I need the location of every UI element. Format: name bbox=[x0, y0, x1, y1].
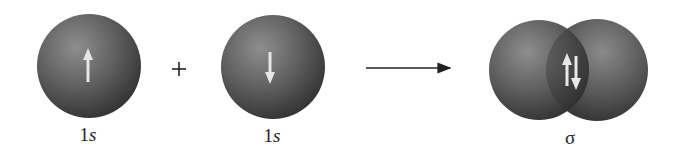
diagram-svg bbox=[0, 0, 680, 150]
orbital-1s-right bbox=[221, 15, 325, 119]
label-subshell: s bbox=[273, 125, 280, 146]
label-sigma: σ bbox=[565, 127, 575, 149]
sphere-icon bbox=[221, 15, 325, 119]
label-number: 1 bbox=[264, 125, 274, 146]
plus-icon bbox=[172, 62, 186, 76]
sigma-orbital bbox=[489, 19, 648, 121]
label-number: 1 bbox=[80, 124, 90, 145]
label-1s-right: 1s bbox=[264, 125, 281, 147]
orbital-1s-left bbox=[37, 14, 141, 118]
label-1s-left: 1s bbox=[80, 124, 97, 146]
sigma-bond-diagram: 1s 1s σ bbox=[0, 0, 680, 150]
label-subshell: s bbox=[89, 124, 96, 145]
